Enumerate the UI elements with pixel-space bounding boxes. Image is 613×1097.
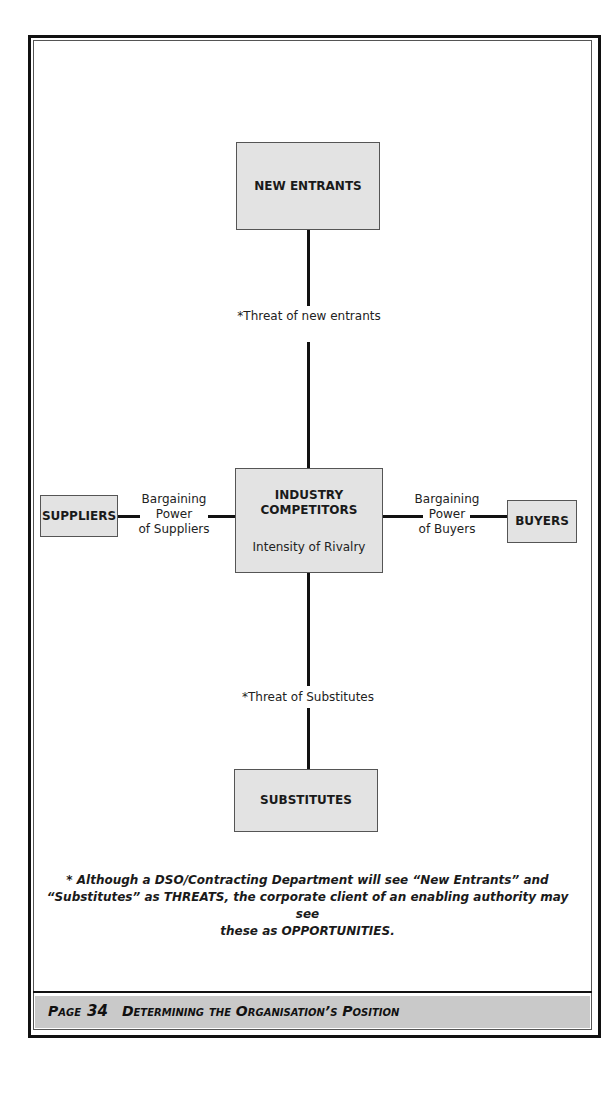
suppliers-power-label: Bargaining Power of Suppliers: [124, 492, 224, 537]
connector-new-entrants-bottom: [307, 342, 310, 468]
industry-label-line1: INDUSTRY: [275, 488, 343, 503]
buyers-power-line3: of Buyers: [397, 522, 497, 537]
new-entrants-label: NEW ENTRANTS: [254, 179, 361, 194]
footer-divider: [33, 991, 592, 993]
buyers-power-line2: Power: [397, 507, 497, 522]
connector-new-entrants-top: [307, 230, 310, 306]
industry-label-line2: COMPETITORS: [261, 503, 358, 518]
industry-competitors-box: INDUSTRY COMPETITORS Intensity of Rivalr…: [235, 468, 383, 573]
page-footer: Page34Determining the Organisation’s Pos…: [48, 1002, 399, 1020]
footnote-line3: these as OPPORTUNITIES.: [40, 923, 575, 940]
substitutes-box: SUBSTITUTES: [234, 769, 378, 832]
suppliers-label: SUPPLIERS: [42, 509, 116, 524]
connector-substitutes-bottom: [307, 708, 310, 769]
buyers-label: BUYERS: [515, 514, 569, 529]
buyers-box: BUYERS: [507, 500, 577, 543]
buyers-power-line1: Bargaining: [397, 492, 497, 507]
suppliers-power-line2: Power: [124, 507, 224, 522]
footnote: * Although a DSO/Contracting Department …: [40, 872, 575, 940]
suppliers-box: SUPPLIERS: [40, 495, 118, 537]
connector-substitutes-top: [307, 573, 310, 686]
page-word: Page: [48, 1003, 81, 1019]
suppliers-power-line3: of Suppliers: [124, 522, 224, 537]
footnote-line2: “Substitutes” as THREATS, the corporate …: [40, 889, 575, 923]
threat-new-entrants-label: *Threat of new entrants: [218, 309, 400, 324]
new-entrants-box: NEW ENTRANTS: [236, 142, 380, 230]
buyers-power-label: Bargaining Power of Buyers: [397, 492, 497, 537]
page-number: 34: [87, 1002, 108, 1020]
suppliers-power-line1: Bargaining: [124, 492, 224, 507]
footnote-line1: * Although a DSO/Contracting Department …: [40, 872, 575, 889]
section-title: Determining the Organisation’s Position: [122, 1003, 399, 1019]
threat-substitutes-label: *Threat of Substitutes: [228, 690, 388, 705]
substitutes-label: SUBSTITUTES: [260, 793, 352, 808]
intensity-of-rivalry-label: Intensity of Rivalry: [253, 540, 366, 554]
